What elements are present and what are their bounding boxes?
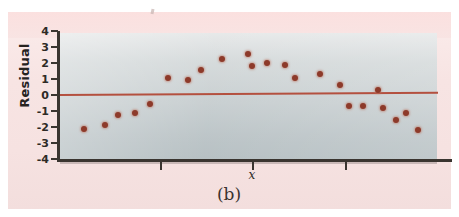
x-axis-tick: [160, 162, 162, 170]
residual-plot-figure: 43210-1-2-3-4 Residual x (b): [0, 0, 459, 217]
y-axis-tick-label: -4: [27, 154, 49, 165]
scatter-point: [115, 112, 121, 118]
x-axis-tick: [345, 162, 347, 170]
figure-caption: (b): [199, 184, 259, 204]
x-axis-title: x: [238, 168, 266, 182]
y-axis-tick-label: -2: [27, 122, 49, 133]
y-axis-tick: [51, 126, 58, 128]
y-axis-tick: [51, 158, 58, 160]
y-axis-tick: [51, 46, 58, 48]
y-axis-tick-label: -3: [27, 138, 49, 149]
y-axis-title: Residual: [17, 31, 32, 121]
scatter-point: [147, 101, 153, 107]
scatter-point: [165, 75, 171, 81]
scatter-point: [198, 67, 204, 73]
scatter-point: [415, 127, 421, 133]
scatter-point: [380, 105, 386, 111]
y-axis-tick: [51, 110, 58, 112]
y-axis-tick: [51, 94, 58, 96]
scatter-point: [292, 75, 298, 81]
y-axis-tick: [51, 78, 58, 80]
scatter-point: [282, 62, 288, 68]
scatter-point: [185, 77, 191, 83]
plot-bottom-shadow: [60, 162, 437, 164]
y-axis-tick: [51, 30, 58, 32]
y-axis-tick: [51, 142, 58, 144]
y-axis-tick: [51, 62, 58, 64]
scatter-point: [393, 117, 399, 123]
